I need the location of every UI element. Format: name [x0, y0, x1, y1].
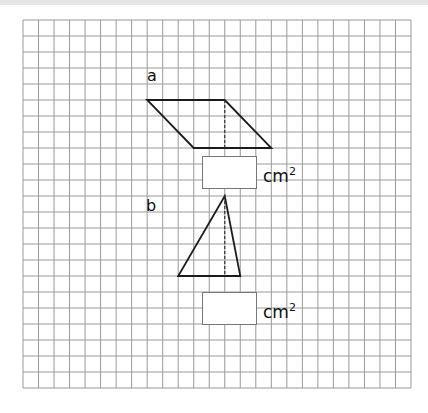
- unit-exponent: 2: [289, 165, 296, 178]
- problem-a-answer-box[interactable]: [202, 156, 257, 189]
- problem-a-unit: cm2: [263, 166, 296, 185]
- problem-b-answer-box[interactable]: [202, 292, 257, 325]
- problem-b-unit: cm2: [263, 302, 296, 321]
- problem-b-label: b: [146, 198, 156, 214]
- unit-exponent: 2: [289, 301, 296, 314]
- problem-a-label: a: [147, 68, 157, 84]
- unit-text: cm: [263, 302, 289, 322]
- unit-text: cm: [263, 166, 289, 186]
- grid-paper: [0, 0, 428, 413]
